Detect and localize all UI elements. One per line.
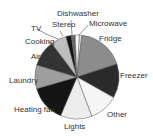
- slice-label-dishwasher: Dishwasher: [57, 9, 99, 18]
- slice-label-microwave: Microwave: [89, 19, 128, 28]
- slice-label-stereo: Stereo: [52, 20, 76, 29]
- slice-label-cooking: Cooking: [25, 37, 54, 46]
- slice-label-laundry: Laundry: [9, 76, 38, 85]
- slice-label-air: Air: [31, 52, 41, 61]
- slice-label-fridge: Fridge: [99, 34, 122, 43]
- slice-label-tv: TV: [31, 24, 42, 33]
- slice-label-heating-fan: Heating fan: [14, 105, 55, 114]
- slice-label-other: Other: [107, 110, 127, 119]
- pie-chart: MicrowaveFridgeFreezerOtherLightsHeating…: [0, 0, 153, 136]
- slice-label-freezer: Freezer: [120, 71, 148, 80]
- slice-label-lights: Lights: [64, 122, 85, 131]
- leader-line-stereo: [60, 31, 63, 36]
- leader-line-microwave: [79, 25, 88, 35]
